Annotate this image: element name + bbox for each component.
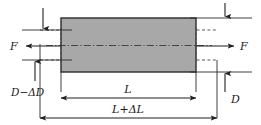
diameter-original-label: D	[230, 93, 240, 106]
force-right-label: F	[239, 40, 248, 53]
length-original-dimension: L	[61, 83, 196, 98]
length-original-label: L	[123, 83, 131, 96]
length-deformed-label: L+ΔL	[111, 103, 144, 116]
deformed-bar-body	[61, 18, 196, 72]
diagram-canvas: F F D−ΔD D	[0, 0, 261, 125]
elasticity-diagram-figure: F F D−ΔD D	[0, 0, 261, 125]
diameter-original-dimension: D	[190, 3, 252, 106]
force-left-label: F	[9, 40, 18, 53]
force-left-group: F	[9, 40, 61, 53]
force-right-group: F	[196, 40, 248, 53]
length-deformed-dimension: L+ΔL	[40, 103, 217, 118]
